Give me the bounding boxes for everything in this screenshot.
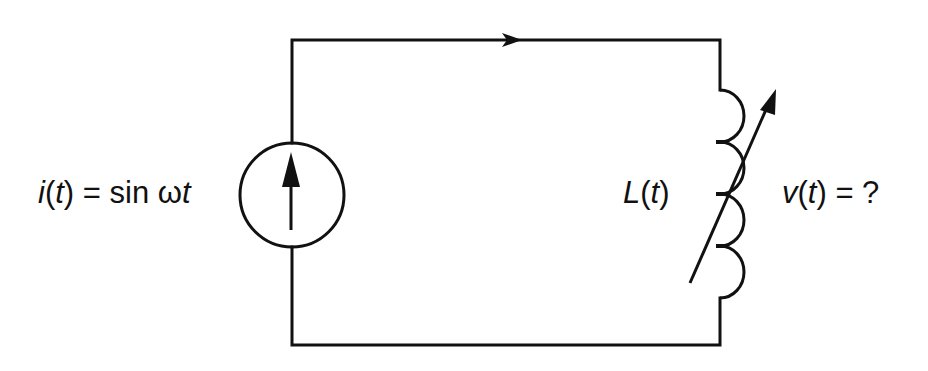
voltage-label: v(t) = ? — [782, 177, 879, 208]
wire-left-top — [292, 40, 720, 143]
source-current-arg: t — [55, 175, 64, 210]
source-current-label: i(t) = sin ωt — [38, 177, 191, 208]
wire-left-bottom — [292, 247, 720, 345]
inductance-label: L(t) — [623, 177, 670, 208]
voltage-var: v — [782, 175, 798, 210]
current-source-icon — [240, 143, 344, 247]
source-current-expr: = sin ω — [74, 175, 182, 210]
variable-arrow-icon — [690, 89, 776, 283]
inductance-var: L — [623, 175, 640, 210]
source-current-var: i — [38, 175, 45, 210]
voltage-expr: = ? — [827, 175, 880, 210]
voltage-arg: t — [808, 175, 817, 210]
source-current-tail: t — [182, 175, 191, 210]
inductance-arg: t — [651, 175, 660, 210]
circuit-diagram: i(t) = sin ωt L(t) v(t) = ? — [0, 0, 928, 371]
